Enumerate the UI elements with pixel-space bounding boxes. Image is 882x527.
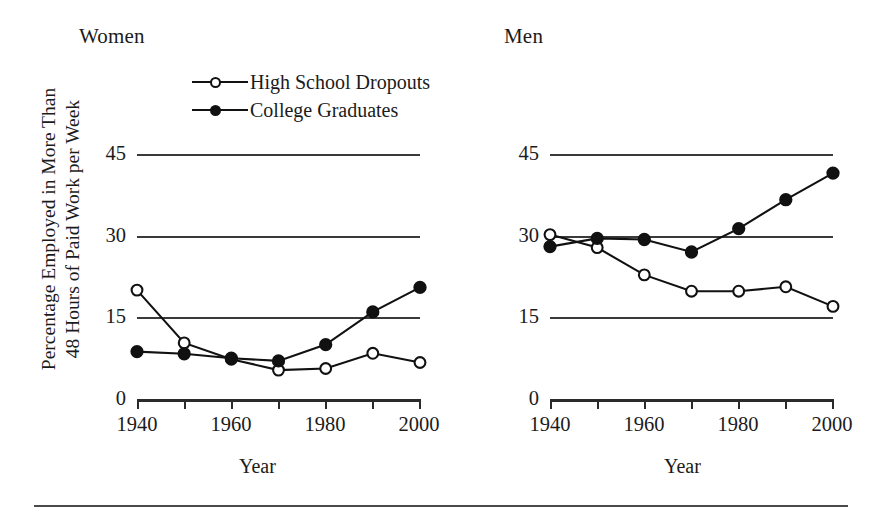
gridline-women-45 <box>137 154 420 156</box>
y-axis-label: Percentage Employed in More Than 48 Hour… <box>32 74 90 384</box>
bottom-rule <box>34 505 848 507</box>
legend: High School Dropouts College Graduates <box>192 68 430 124</box>
x-axis-label-men: Year <box>664 455 701 478</box>
point-women-s0-1980 <box>320 363 331 374</box>
x-tick-mark-women-1990 <box>372 399 374 409</box>
x-tick-mark-women-1950 <box>184 399 186 409</box>
point-women-s0-1940 <box>132 285 143 296</box>
series-layer <box>0 0 882 527</box>
point-men-s1-1950 <box>592 233 603 244</box>
y-tick-women-15: 15 <box>86 305 126 328</box>
point-men-s0-2000 <box>828 301 839 312</box>
point-women-s1-1990 <box>367 306 378 317</box>
y-axis-label-line-1: Percentage Employed in More Than <box>37 88 61 370</box>
point-women-s0-1950 <box>179 338 190 349</box>
x-tick-mark-women-2000 <box>419 399 421 409</box>
panel-series-women <box>131 282 425 376</box>
y-tick-women-45: 45 <box>86 142 126 165</box>
point-women-s1-1940 <box>131 346 142 357</box>
point-men-s1-1940 <box>544 241 555 252</box>
point-men-s0-1980 <box>733 286 744 297</box>
panel-title-women: Women <box>79 24 145 49</box>
x-tick-mark-women-1960 <box>231 399 233 409</box>
y-tick-women-0: 0 <box>86 387 126 410</box>
x-tick-mark-men-1960 <box>644 399 646 409</box>
point-men-s1-1990 <box>780 194 791 205</box>
panel-title-men: Men <box>504 24 543 49</box>
gridline-men-30 <box>550 236 833 238</box>
x-tick-mark-men-1950 <box>597 399 599 409</box>
point-women-s0-1970 <box>273 365 284 376</box>
y-tick-men-15: 15 <box>499 305 539 328</box>
gridline-women-30 <box>137 236 420 238</box>
panel-series-men <box>544 168 838 312</box>
y-axis-label-line-2: 48 Hours of Paid Work per Week <box>61 100 85 358</box>
y-tick-men-30: 30 <box>499 224 539 247</box>
figure-two-panel-line-chart: Women Men Percentage Employed in More Th… <box>0 0 882 527</box>
x-tick-mark-men-1980 <box>738 399 740 409</box>
point-men-s0-1970 <box>686 286 697 297</box>
line-men-series-1 <box>550 173 833 252</box>
point-women-s1-1960 <box>226 353 237 364</box>
open-circle-marker-icon <box>192 75 248 89</box>
point-women-s0-2000 <box>415 357 426 368</box>
x-tick-men-1980: 1980 <box>698 413 778 436</box>
legend-item-graduates: College Graduates <box>192 96 430 124</box>
point-men-s0-1940 <box>545 229 556 240</box>
point-men-s1-1980 <box>733 223 744 234</box>
x-tick-mark-women-1980 <box>325 399 327 409</box>
point-men-s1-1970 <box>686 246 697 257</box>
point-women-s0-1960 <box>226 354 237 365</box>
x-tick-women-2000: 2000 <box>379 413 459 436</box>
x-tick-men-2000: 2000 <box>792 413 872 436</box>
line-women-series-0 <box>137 290 420 370</box>
x-tick-mark-men-1970 <box>691 399 693 409</box>
x-tick-women-1960: 1960 <box>191 413 271 436</box>
point-men-s0-1990 <box>780 281 791 292</box>
point-men-s0-1950 <box>592 242 603 253</box>
x-tick-mark-men-2000 <box>832 399 834 409</box>
gridline-men-15 <box>550 317 833 319</box>
point-women-s0-1990 <box>367 348 378 359</box>
x-tick-men-1940: 1940 <box>510 413 590 436</box>
x-tick-mark-men-1990 <box>785 399 787 409</box>
gridline-women-15 <box>137 317 420 319</box>
point-men-s0-1960 <box>639 270 650 281</box>
x-tick-women-1980: 1980 <box>285 413 365 436</box>
x-axis-label-women: Year <box>239 455 276 478</box>
y-tick-men-45: 45 <box>499 142 539 165</box>
legend-item-dropouts: High School Dropouts <box>192 68 430 96</box>
x-tick-women-1940: 1940 <box>97 413 177 436</box>
filled-circle-marker-icon <box>192 103 248 117</box>
y-tick-men-0: 0 <box>499 387 539 410</box>
x-tick-mark-women-1940 <box>137 399 139 409</box>
x-tick-men-1960: 1960 <box>604 413 684 436</box>
x-tick-mark-men-1940 <box>550 399 552 409</box>
legend-label-dropouts: High School Dropouts <box>250 71 430 94</box>
point-women-s1-1950 <box>179 348 190 359</box>
point-women-s1-1980 <box>320 339 331 350</box>
line-men-series-0 <box>550 235 833 307</box>
legend-label-graduates: College Graduates <box>250 99 398 122</box>
point-women-s1-2000 <box>414 282 425 293</box>
x-tick-mark-women-1970 <box>278 399 280 409</box>
gridline-men-45 <box>550 154 833 156</box>
point-men-s1-2000 <box>827 168 838 179</box>
point-women-s1-1970 <box>273 355 284 366</box>
line-women-series-1 <box>137 287 420 361</box>
y-tick-women-30: 30 <box>86 224 126 247</box>
